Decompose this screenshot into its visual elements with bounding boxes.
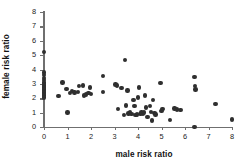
x-tick-mark xyxy=(68,127,69,130)
data-point xyxy=(125,88,129,92)
x-tick-label: 2 xyxy=(85,133,97,140)
data-point xyxy=(193,87,197,91)
x-tick-label: 1 xyxy=(62,133,74,140)
y-tick-label: 7 xyxy=(26,22,36,29)
data-point xyxy=(145,115,149,119)
data-point xyxy=(65,110,69,114)
data-point xyxy=(143,93,147,97)
data-point xyxy=(101,90,105,94)
x-tick-mark xyxy=(138,127,139,130)
x-tick-mark xyxy=(185,127,186,130)
data-point xyxy=(116,107,120,111)
y-tick-label: 2 xyxy=(26,94,36,101)
data-point xyxy=(230,117,234,121)
data-point xyxy=(153,112,157,116)
data-point xyxy=(192,125,196,129)
x-tick-mark xyxy=(232,127,233,130)
x-tick-mark xyxy=(44,127,45,130)
data-point xyxy=(101,74,105,78)
x-tick-mark xyxy=(162,127,163,130)
y-tick-mark xyxy=(40,127,43,128)
y-tick-label: 3 xyxy=(26,80,36,87)
data-points-layer xyxy=(44,12,232,127)
y-tick-mark xyxy=(40,55,43,56)
y-tick-label: 5 xyxy=(26,51,36,58)
data-point xyxy=(158,81,162,85)
y-tick-mark xyxy=(40,12,43,13)
y-tick-mark xyxy=(40,26,43,27)
data-point xyxy=(42,50,46,54)
data-point xyxy=(89,92,93,96)
x-tick-label: 7 xyxy=(203,133,215,140)
data-point xyxy=(56,94,60,98)
x-tick-mark xyxy=(209,127,210,130)
scatter-chart: 012345678012345678 male risk ratio femal… xyxy=(0,0,252,167)
data-point xyxy=(142,110,146,114)
y-tick-mark xyxy=(40,113,43,114)
x-axis-title: male risk ratio xyxy=(0,150,252,159)
data-point xyxy=(160,107,164,111)
x-tick-mark xyxy=(91,127,92,130)
x-tick-label: 3 xyxy=(109,133,121,140)
data-point xyxy=(213,102,217,106)
y-tick-label: 8 xyxy=(26,8,36,15)
data-point xyxy=(123,58,127,62)
data-point xyxy=(192,75,196,79)
data-point xyxy=(178,108,182,112)
y-tick-label: 4 xyxy=(26,66,36,73)
x-tick-label: 6 xyxy=(179,133,191,140)
y-tick-label: 0 xyxy=(26,123,36,130)
x-tick-label: 4 xyxy=(132,133,144,140)
x-tick-label: 5 xyxy=(156,133,168,140)
data-point xyxy=(150,118,154,122)
x-tick-label: 8 xyxy=(226,133,238,140)
data-point xyxy=(76,90,80,94)
data-point xyxy=(88,85,92,89)
y-axis-title: female risk ratio xyxy=(2,30,11,104)
data-point xyxy=(168,118,172,122)
data-point xyxy=(60,80,64,84)
x-tick-mark xyxy=(115,127,116,130)
data-point xyxy=(119,86,123,90)
data-point xyxy=(42,95,46,99)
x-tick-label: 0 xyxy=(38,133,50,140)
y-tick-mark xyxy=(40,41,43,42)
data-point xyxy=(148,104,152,108)
data-point xyxy=(131,98,135,102)
y-tick-label: 6 xyxy=(26,37,36,44)
data-point xyxy=(124,103,128,107)
data-point xyxy=(137,85,141,89)
data-point xyxy=(132,104,136,108)
data-point xyxy=(151,98,155,102)
y-tick-label: 1 xyxy=(26,109,36,116)
data-point xyxy=(81,83,85,87)
data-point xyxy=(136,95,140,99)
